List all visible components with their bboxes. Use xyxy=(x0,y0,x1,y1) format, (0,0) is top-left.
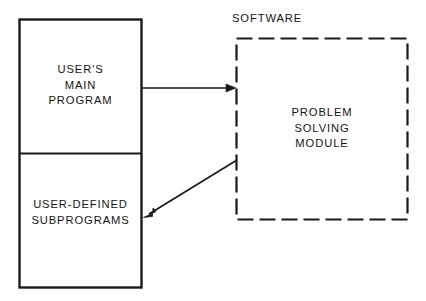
user-main-program-label: USER'S MAIN PROGRAM xyxy=(19,62,142,109)
diagram-canvas: USER'S MAIN PROGRAM USER-DEFINED SUBPROG… xyxy=(0,0,426,301)
return-arrow-to-subprograms xyxy=(144,160,238,218)
user-defined-subprograms-label: USER-DEFINED SUBPROGRAMS xyxy=(14,197,147,228)
problem-solving-module-label: PROBLEM SOLVING MODULE xyxy=(236,105,408,152)
call-arrow-to-module xyxy=(142,84,236,92)
software-group-label: SOFTWARE xyxy=(232,11,352,27)
